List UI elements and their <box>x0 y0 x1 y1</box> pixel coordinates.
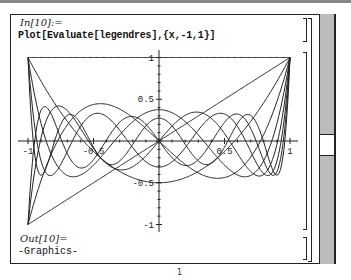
svg-text:-1: -1 <box>143 221 154 231</box>
svg-text:1: 1 <box>149 54 154 64</box>
svg-text:1: 1 <box>287 147 292 157</box>
cell-bracket-input[interactable] <box>303 18 307 42</box>
svg-text:-1: -1 <box>23 147 34 157</box>
vertical-scrollbar[interactable] <box>319 14 335 264</box>
cell-bracket-graphics[interactable] <box>303 52 307 230</box>
svg-text:0.5: 0.5 <box>138 95 154 105</box>
svg-text:-0.5: -0.5 <box>83 147 105 157</box>
cell-bracket-group[interactable] <box>308 18 312 262</box>
cell-bracket-output[interactable] <box>303 237 307 260</box>
page-number: 1 <box>177 268 182 277</box>
scrollbar-thumb[interactable] <box>320 134 334 156</box>
svg-text:0.5: 0.5 <box>216 147 232 157</box>
svg-text:-0.5: -0.5 <box>132 179 154 189</box>
output-label: Out[10]= <box>20 233 68 244</box>
output-text: -Graphics- <box>18 246 78 257</box>
